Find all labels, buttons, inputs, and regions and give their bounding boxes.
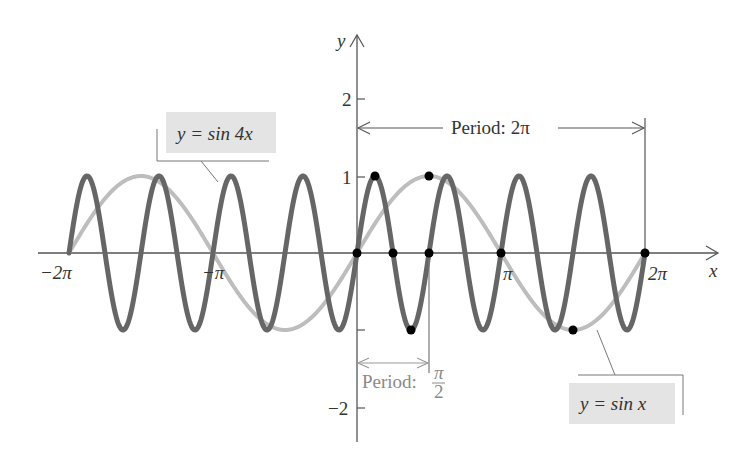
y-axis-label: y xyxy=(335,30,346,51)
data-point xyxy=(425,249,434,258)
x-tick-label-negpi: −π xyxy=(202,262,225,283)
y-tick-label-neg2: −2 xyxy=(328,398,348,419)
x-tick-label-neg2pi: −2π xyxy=(40,262,72,283)
data-point xyxy=(407,326,416,335)
x-tick-label-2pi: 2π xyxy=(648,263,668,284)
x-tick-label-pi: π xyxy=(503,263,513,284)
x-axis-label: x xyxy=(708,260,718,281)
legend-sinx-pointer xyxy=(597,330,615,375)
data-point xyxy=(389,249,398,258)
data-point xyxy=(425,172,434,181)
legend-sinx-text: y = sin x xyxy=(578,393,647,414)
legend-sin4x-text: y = sin 4x xyxy=(175,123,253,144)
period-pi2-denominator: 2 xyxy=(434,381,444,402)
data-point xyxy=(353,249,362,258)
y-tick-label-1: 1 xyxy=(342,167,352,188)
y-tick-label-2: 2 xyxy=(342,89,352,110)
data-point xyxy=(569,326,578,335)
period-pi2-label: Period: xyxy=(362,371,417,392)
data-point xyxy=(497,249,506,258)
period-pi2-numerator: π xyxy=(434,362,444,383)
legend-sinx-label: y = sin x xyxy=(578,393,647,414)
data-point xyxy=(641,249,650,258)
period-2pi-label: Period: 2π xyxy=(451,117,530,138)
legend-sin4x-pointer xyxy=(201,161,218,182)
sine-period-chart: Period: 2π Period: π 2 y = sin 4x y = si… xyxy=(0,0,750,465)
legend-sin4x-label: y = sin 4x xyxy=(175,123,253,144)
data-point xyxy=(371,172,380,181)
